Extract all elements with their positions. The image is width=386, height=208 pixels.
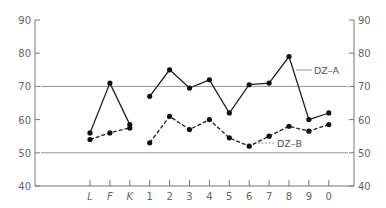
- series-dz-a: [87, 54, 331, 136]
- left-y-tick-label: 90: [18, 15, 31, 26]
- data-point: [286, 54, 291, 59]
- data-point: [306, 129, 311, 134]
- data-point: [147, 140, 152, 145]
- data-point: [167, 114, 172, 119]
- data-point: [107, 130, 112, 135]
- data-point: [326, 122, 331, 127]
- right-y-tick-label: 70: [358, 81, 371, 92]
- data-point: [227, 110, 232, 115]
- right-y-tick-label: 80: [358, 48, 371, 59]
- left-y-tick-label: 40: [18, 181, 31, 192]
- x-tick-label: 1: [147, 191, 153, 202]
- data-point: [247, 144, 252, 149]
- data-point: [306, 117, 311, 122]
- data-series: [87, 54, 331, 149]
- data-point: [207, 117, 212, 122]
- x-tick-label: F: [107, 191, 113, 202]
- left-y-tick-label: 50: [18, 148, 31, 159]
- x-tick-label: 2: [166, 191, 172, 202]
- x-tick-label: 6: [246, 191, 252, 202]
- x-tick-label: 4: [206, 191, 212, 202]
- left-y-tick-label: 60: [18, 115, 31, 126]
- data-point: [227, 135, 232, 140]
- data-point: [286, 124, 291, 129]
- x-tick-label: 0: [326, 191, 332, 202]
- x-tick-label: 3: [186, 191, 192, 202]
- series-line: [150, 57, 329, 120]
- x-tick-label: 7: [266, 191, 272, 202]
- right-y-tick-label: 60: [358, 115, 371, 126]
- right-y-tick-label: 40: [358, 181, 371, 192]
- left-y-tick-label: 70: [18, 81, 31, 92]
- x-tick-label: 9: [306, 191, 312, 202]
- data-point: [187, 85, 192, 90]
- dz-b-label: DZ–B: [277, 138, 302, 149]
- data-point: [267, 80, 272, 85]
- dz-a-label: DZ–A: [314, 65, 340, 76]
- data-point: [267, 134, 272, 139]
- data-point: [87, 137, 92, 142]
- data-point: [326, 110, 331, 115]
- data-point: [127, 125, 132, 130]
- data-point: [207, 77, 212, 82]
- data-point: [187, 127, 192, 132]
- x-tick-label: 5: [226, 191, 232, 202]
- left-y-tick-label: 80: [18, 48, 31, 59]
- right-y-tick-label: 50: [358, 148, 371, 159]
- x-tick-label: K: [127, 191, 135, 202]
- x-tick-label: L: [87, 191, 93, 202]
- right-y-tick-label: 90: [358, 15, 371, 26]
- axes: 404050506060707080809090LFK1234567890: [18, 15, 370, 202]
- data-point: [247, 82, 252, 87]
- data-point: [107, 80, 112, 85]
- x-tick-label: 8: [286, 191, 292, 202]
- line-chart: 404050506060707080809090LFK1234567890 DZ…: [0, 0, 386, 208]
- data-point: [147, 94, 152, 99]
- series-line: [90, 83, 130, 133]
- data-point: [87, 130, 92, 135]
- data-point: [167, 67, 172, 72]
